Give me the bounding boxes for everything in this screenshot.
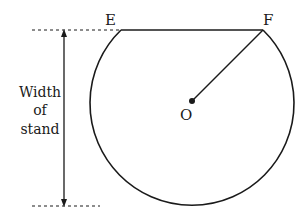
radius-of	[192, 30, 263, 101]
width-label-line1: Width	[19, 84, 61, 100]
circle-stand-diagram: E F O Width of stand	[0, 0, 308, 216]
width-label-line2: of	[33, 102, 48, 118]
center-point-o	[189, 98, 195, 104]
label-f: F	[263, 11, 273, 29]
label-e: E	[105, 11, 116, 29]
width-label-line3: stand	[20, 121, 59, 137]
label-o: O	[180, 106, 192, 124]
